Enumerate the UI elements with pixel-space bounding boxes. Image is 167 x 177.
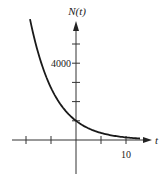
y-axis-label: N(t) xyxy=(67,5,86,18)
x-axis-label: t xyxy=(155,134,159,146)
decay-curve xyxy=(30,19,140,138)
x-tick-label-10: 10 xyxy=(121,149,131,160)
x-axis-arrow-icon xyxy=(143,137,152,143)
y-tick-label-4000: 4000 xyxy=(51,58,71,69)
y-axis-arrow-icon xyxy=(73,21,79,31)
chart: N(t) t 4000 10 xyxy=(0,0,167,177)
